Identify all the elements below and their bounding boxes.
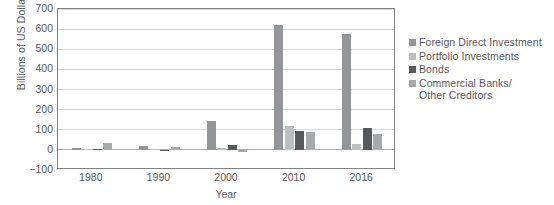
bar [103, 143, 112, 149]
y-tick-label: 200 [14, 103, 53, 114]
bar [93, 149, 102, 150]
x-axis-title: Year [57, 188, 395, 200]
y-tick-label: −100 [14, 164, 53, 175]
y-tick-label: 0 [14, 144, 53, 155]
legend-label: Commercial Banks/ Other Creditors [419, 77, 512, 102]
chart-legend: Foreign Direct InvestmentPortfolio Inves… [409, 36, 554, 103]
x-tick-label: 1980 [79, 171, 102, 183]
bar [72, 148, 81, 150]
legend-label: Foreign Direct Investment [419, 36, 542, 49]
bar [171, 147, 180, 149]
bar [228, 145, 237, 150]
bar-group [126, 9, 194, 168]
bar-group [193, 9, 261, 168]
y-tick-label: 100 [14, 124, 53, 135]
legend-swatch-icon [409, 80, 416, 87]
x-axis-tick-labels: 19801990200020102016 [57, 171, 395, 186]
plot-inner [58, 9, 394, 168]
y-tick-label: 600 [14, 23, 53, 34]
y-tick-label: 400 [14, 63, 53, 74]
bar [363, 128, 372, 150]
bar [274, 25, 283, 150]
bar [238, 150, 247, 152]
bar [295, 131, 304, 150]
bar-group [58, 9, 126, 168]
bar [352, 144, 361, 150]
bar [160, 150, 169, 151]
legend-item[interactable]: Bonds [409, 63, 554, 76]
x-tick-label: 2010 [282, 171, 305, 183]
bar-group [328, 9, 396, 168]
legend-label: Portfolio Investments [419, 50, 519, 63]
legend-swatch-icon [409, 66, 416, 73]
y-tick-label: 300 [14, 83, 53, 94]
plot-area [57, 8, 395, 169]
bar-group [261, 9, 329, 168]
bar [285, 126, 294, 150]
legend-item[interactable]: Portfolio Investments [409, 50, 554, 63]
y-tick-label: 700 [14, 3, 53, 14]
bar [342, 34, 351, 150]
x-tick-label: 2016 [350, 171, 373, 183]
bar [150, 149, 159, 150]
bar [306, 132, 315, 150]
chart-figure: Billions of US Dollars −1000100200300400… [0, 0, 554, 205]
y-tick-label: 500 [14, 43, 53, 54]
x-tick-label: 2000 [214, 171, 237, 183]
bar [373, 134, 382, 150]
bar [217, 148, 226, 150]
y-axis-tick-labels: −1000100200300400500600700 [14, 8, 53, 169]
bar [207, 121, 216, 150]
bar [139, 146, 148, 150]
x-tick-label: 1990 [147, 171, 170, 183]
legend-swatch-icon [409, 39, 416, 46]
legend-label: Bonds [419, 63, 449, 76]
legend-swatch-icon [409, 53, 416, 60]
legend-item[interactable]: Foreign Direct Investment [409, 36, 554, 49]
legend-item[interactable]: Commercial Banks/ Other Creditors [409, 77, 554, 102]
bar [82, 149, 91, 150]
